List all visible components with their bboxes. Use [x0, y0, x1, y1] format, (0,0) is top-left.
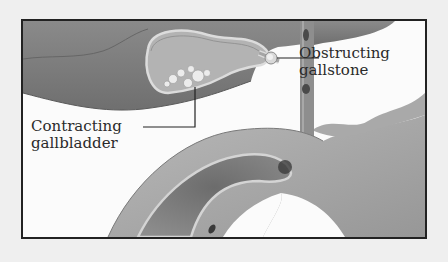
obstructing-gallstone-shape — [265, 52, 277, 64]
label-obstructing-gallstone: Obstructing gallstone — [299, 45, 390, 79]
duodenum — [108, 93, 425, 237]
label-line: gallstone — [299, 62, 390, 79]
label-line: Obstructing — [299, 45, 390, 62]
illustration-frame: Obstructing gallstone Contracting gallbl… — [21, 19, 427, 239]
label-contracting-gallbladder: Contracting gallbladder — [31, 118, 122, 152]
label-line: Contracting — [31, 118, 122, 135]
liver-right-lobe — [314, 21, 395, 45]
label-line: gallbladder — [31, 135, 122, 152]
